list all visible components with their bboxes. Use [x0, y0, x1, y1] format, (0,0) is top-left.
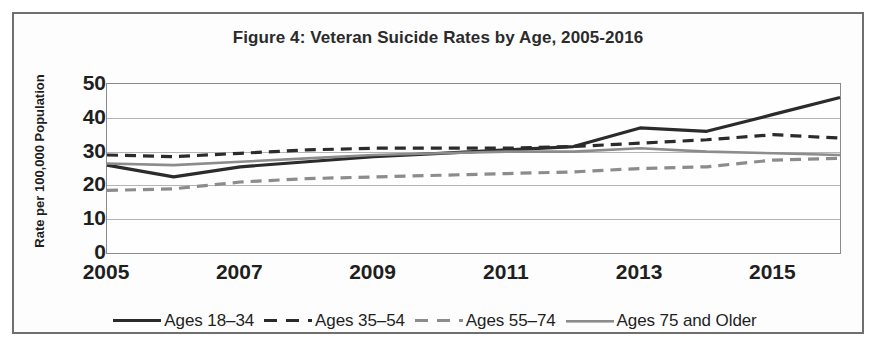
y-axis-title: Rate per 100,000 Population: [32, 66, 54, 256]
legend-label: Ages 35–54: [315, 311, 405, 331]
legend-label: Ages 55–74: [466, 311, 556, 331]
x-tick-label: 2009: [349, 260, 396, 284]
y-tick-label: 20: [62, 173, 106, 195]
y-tick-label: 30: [62, 140, 106, 162]
legend-swatch-icon: [566, 314, 614, 328]
x-tick-label: 2005: [83, 260, 130, 284]
chart-lines: [107, 84, 840, 253]
y-axis-tick-labels: 50403020100: [62, 83, 106, 265]
legend-item[interactable]: Ages 35–54: [264, 311, 415, 331]
plot-area: [106, 83, 841, 254]
x-tick-label: 2013: [616, 260, 663, 284]
legend-item[interactable]: Ages 55–74: [415, 311, 566, 331]
legend-label: Ages 75 and Older: [617, 311, 757, 331]
legend-swatch-icon: [264, 314, 312, 328]
x-tick-label: 2011: [483, 260, 529, 284]
figure-frame: Figure 4: Veteran Suicide Rates by Age, …: [12, 12, 864, 334]
y-tick-label: 40: [62, 106, 106, 128]
legend-label: Ages 18–34: [164, 311, 254, 331]
legend-swatch-icon: [113, 314, 161, 328]
legend-item[interactable]: Ages 18–34: [113, 311, 264, 331]
legend-item[interactable]: Ages 75 and Older: [566, 311, 767, 331]
y-tick-label: 50: [62, 72, 106, 94]
chart-legend: Ages 18–34Ages 35–54Ages 55–74Ages 75 an…: [28, 306, 852, 336]
gridline-0: [107, 253, 840, 254]
x-tick-label: 2007: [216, 260, 263, 284]
chart-title: Figure 4: Veteran Suicide Rates by Age, …: [14, 28, 862, 48]
x-axis-tick-labels: 200520072009201120132015: [106, 260, 839, 290]
y-tick-label: 10: [62, 207, 106, 229]
x-tick-label: 2015: [749, 260, 796, 284]
series-line-0: [107, 98, 840, 177]
legend-swatch-icon: [415, 314, 463, 328]
